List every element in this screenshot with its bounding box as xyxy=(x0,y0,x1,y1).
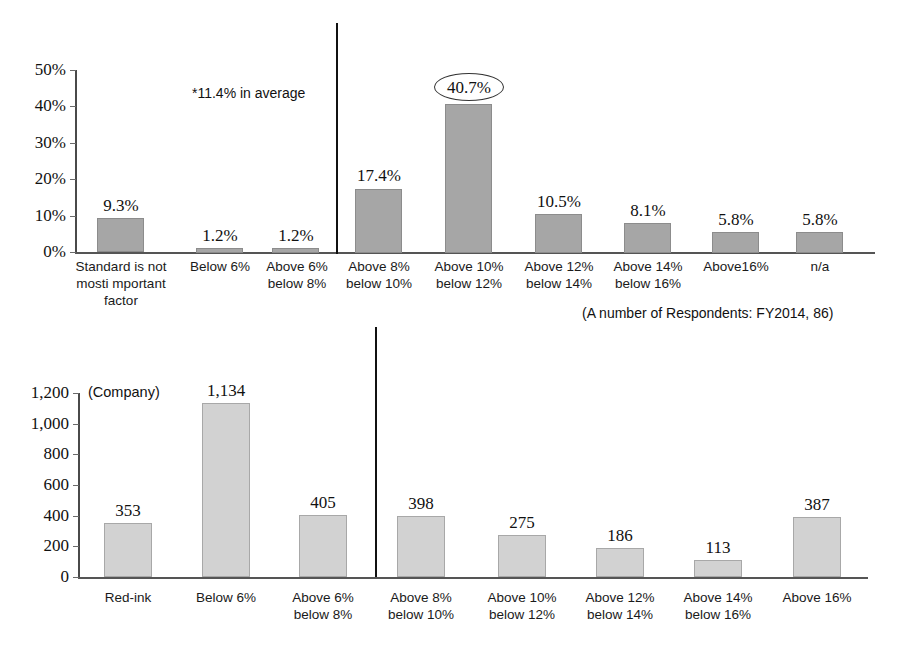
bottom-category-label-6-line-1: below 16% xyxy=(663,606,773,623)
top-percentage-bar-chart: 50% 40% 30% 20% 10% 0% *11.4% in average… xyxy=(0,0,898,340)
bottom-category-label-6-line-0: Above 14% xyxy=(663,589,773,606)
bottom-y-tick-label-800: 800 xyxy=(4,444,69,464)
bottom-y-tick-label-600: 600 xyxy=(4,475,69,495)
bottom-y-tick-800 xyxy=(73,454,79,455)
bottom-bar-5 xyxy=(596,548,644,577)
top-bar-4 xyxy=(445,104,492,253)
top-category-label-0-line-1: mosti mportant xyxy=(60,275,182,292)
bottom-bar-value-3: 398 xyxy=(386,494,456,514)
top-y-tick-label-0: 0% xyxy=(16,242,66,262)
top-bar-value-7: 5.8% xyxy=(701,210,771,230)
top-bar-3 xyxy=(355,189,402,253)
top-respondents-footnote: (A number of Respondents: FY2014, 86) xyxy=(582,305,833,321)
bottom-category-label-5-line-1: below 14% xyxy=(565,606,675,623)
top-bar-5 xyxy=(535,214,582,253)
top-y-tick-40 xyxy=(70,106,76,107)
top-y-tick-10 xyxy=(70,216,76,217)
bottom-category-label-2: Above 6% below 8% xyxy=(268,589,378,623)
top-y-tick-0 xyxy=(70,252,76,253)
top-category-label-8: n/a xyxy=(765,258,875,275)
bottom-category-label-1: Below 6% xyxy=(171,589,281,606)
bottom-category-label-3: Above 8% below 10% xyxy=(366,589,476,623)
top-y-tick-20 xyxy=(70,179,76,180)
top-bar-value-3: 17.4% xyxy=(344,166,414,186)
bottom-unit-label: (Company) xyxy=(88,384,160,400)
top-y-axis-line xyxy=(75,70,77,254)
bottom-bar-value-0: 353 xyxy=(93,501,163,521)
bottom-category-label-7: Above 16% xyxy=(762,589,872,606)
bottom-bar-1 xyxy=(202,403,250,577)
top-y-tick-label-20: 20% xyxy=(16,169,66,189)
bottom-y-tick-label-400: 400 xyxy=(4,506,69,526)
top-y-tick-30 xyxy=(70,143,76,144)
top-bar-7 xyxy=(712,232,759,253)
bottom-category-label-3-line-1: below 10% xyxy=(366,606,476,623)
top-y-tick-label-30: 30% xyxy=(16,133,66,153)
bottom-bar-0 xyxy=(104,523,152,577)
top-bar-value-1: 1.2% xyxy=(185,226,255,246)
top-category-label-0-line-0: Standard is not xyxy=(60,258,182,275)
bottom-bar-7 xyxy=(793,517,841,577)
bottom-bar-value-6: 113 xyxy=(683,538,753,558)
top-average-annotation: *11.4% in average xyxy=(192,85,305,101)
bottom-bar-4 xyxy=(498,535,546,577)
bottom-y-tick-0 xyxy=(73,577,79,578)
bottom-y-tick-1200 xyxy=(73,393,79,394)
top-bar-6 xyxy=(624,223,671,253)
bottom-bar-value-2: 405 xyxy=(288,493,358,513)
top-bar-1 xyxy=(196,248,243,253)
bottom-bar-3 xyxy=(397,516,445,577)
top-bar-value-4: 40.7% xyxy=(434,78,504,98)
bottom-category-label-4-line-1: below 12% xyxy=(467,606,577,623)
bottom-bar-value-4: 275 xyxy=(487,513,557,533)
top-bar-value-0: 9.3% xyxy=(86,196,156,216)
bottom-y-tick-label-0: 0 xyxy=(4,567,69,587)
top-bar-value-8: 5.8% xyxy=(785,210,855,230)
top-category-label-6-line-1: below 16% xyxy=(593,275,703,292)
bottom-bar-6 xyxy=(694,560,742,577)
top-bar-value-5: 10.5% xyxy=(524,192,594,212)
top-category-label-0-line-2: factor xyxy=(60,292,182,309)
bottom-category-label-4: Above 10% below 12% xyxy=(467,589,577,623)
bottom-x-axis-line xyxy=(78,577,868,579)
top-y-tick-label-50: 50% xyxy=(16,60,66,80)
bottom-category-label-5: Above 12% below 14% xyxy=(565,589,675,623)
bottom-category-label-1-line-0: Below 6% xyxy=(171,589,281,606)
bottom-y-tick-label-1000: 1,000 xyxy=(4,414,69,434)
bottom-y-tick-1000 xyxy=(73,424,79,425)
bottom-bar-value-7: 387 xyxy=(782,495,852,515)
bottom-section-divider xyxy=(375,327,377,577)
bottom-y-tick-600 xyxy=(73,485,79,486)
top-bar-8 xyxy=(796,232,843,253)
bottom-category-label-2-line-0: Above 6% xyxy=(268,589,378,606)
bottom-y-tick-200 xyxy=(73,546,79,547)
bottom-category-label-0: Red-ink xyxy=(73,589,183,606)
bottom-category-label-7-line-0: Above 16% xyxy=(762,589,872,606)
bottom-category-label-0-line-0: Red-ink xyxy=(73,589,183,606)
top-bar-value-2: 1.2% xyxy=(261,226,331,246)
top-section-divider xyxy=(336,23,338,254)
top-bar-0 xyxy=(97,218,144,252)
top-y-tick-label-40: 40% xyxy=(16,96,66,116)
bottom-bar-value-5: 186 xyxy=(585,526,655,546)
bottom-bar-2 xyxy=(299,515,347,577)
top-bar-2 xyxy=(272,248,319,253)
bottom-y-tick-label-1200: 1,200 xyxy=(4,383,69,403)
bottom-category-label-5-line-0: Above 12% xyxy=(565,589,675,606)
bottom-y-tick-label-200: 200 xyxy=(4,536,69,556)
top-bar-value-6: 8.1% xyxy=(613,201,683,221)
top-category-label-8-line-0: n/a xyxy=(765,258,875,275)
bottom-bar-value-1: 1,134 xyxy=(191,381,261,401)
bottom-category-label-2-line-1: below 8% xyxy=(268,606,378,623)
bottom-y-tick-400 xyxy=(73,516,79,517)
bottom-category-label-6: Above 14% below 16% xyxy=(663,589,773,623)
top-category-label-0: Standard is not mosti mportant factor xyxy=(60,258,182,309)
top-y-tick-50 xyxy=(70,70,76,71)
bottom-company-count-bar-chart: 1,200 1,000 800 600 400 200 0 (Company) … xyxy=(0,330,898,654)
bottom-category-label-4-line-0: Above 10% xyxy=(467,589,577,606)
bottom-category-label-3-line-0: Above 8% xyxy=(366,589,476,606)
top-y-tick-label-10: 10% xyxy=(16,206,66,226)
